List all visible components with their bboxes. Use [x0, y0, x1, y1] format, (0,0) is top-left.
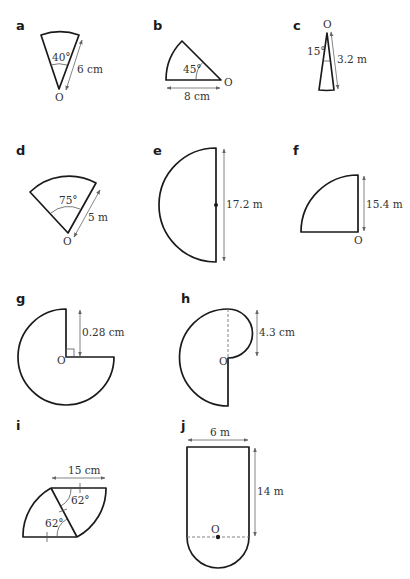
angle-text-c: 15° — [307, 45, 326, 57]
angle-arc-a — [51, 64, 67, 65]
figure-g: g 0.28 cm O — [16, 291, 125, 405]
centre-label-b: O — [224, 76, 233, 88]
figure-a: a 40° 6 cm O — [16, 18, 103, 103]
centre-label-j: O — [211, 523, 220, 535]
figure-b: b 45° 8 cm O — [153, 18, 233, 102]
centre-label-h: O — [219, 355, 228, 367]
figure-c: c 15° 3.2 m O — [293, 18, 367, 90]
width-text-j: 6 m — [210, 426, 230, 438]
length-text-c: 3.2 m — [337, 53, 367, 65]
figure-label-e: e — [153, 143, 162, 158]
angle-text-a: 40° — [52, 51, 71, 63]
length-text-i: 15 cm — [68, 464, 101, 476]
figure-label-f: f — [293, 143, 299, 158]
figure-label-h: h — [181, 291, 190, 306]
angle-arc-d — [51, 206, 80, 213]
figure-label-b: b — [153, 18, 162, 33]
centre-label-f: O — [354, 234, 363, 246]
semicircle-e — [159, 148, 216, 262]
centre-dot-j — [216, 535, 220, 539]
figure-label-j: j — [180, 418, 185, 433]
length-text-g: 0.28 cm — [82, 326, 125, 338]
angle-text-i-bottom: 62° — [45, 517, 64, 529]
length-text-h: 4.3 cm — [259, 326, 295, 338]
angle-text-b: 45° — [183, 63, 202, 75]
rectangle-semicircle-j — [187, 447, 249, 568]
height-text-j: 14 m — [257, 485, 284, 497]
compound-semicircle-h — [179, 309, 252, 406]
length-text-e: 17.2 m — [226, 198, 263, 210]
centre-label-g: O — [57, 354, 66, 366]
centre-dot-e — [214, 203, 218, 207]
figure-h: h 4.3 cm O — [179, 291, 294, 406]
diagram-canvas: a 40° 6 cm O b 45° 8 cm O c 15° 3.2 m O … — [0, 0, 410, 579]
figure-e: e 17.2 m — [153, 143, 263, 262]
angle-text-d: 75° — [59, 194, 78, 206]
figure-d: d 75° 5 m O — [16, 143, 108, 247]
centre-label-a: O — [55, 91, 64, 103]
length-text-f: 15.4 m — [366, 198, 403, 210]
figure-f: f 15.4 m O — [293, 143, 403, 246]
angle-arc-i-top — [61, 488, 71, 506]
centre-label-c: O — [323, 18, 332, 30]
figure-j: j O 6 m 14 m — [180, 418, 284, 568]
figure-label-d: d — [16, 143, 25, 158]
angle-text-i-top: 62° — [71, 494, 90, 506]
centre-label-d: O — [63, 235, 72, 247]
quarter-circle-f — [301, 175, 358, 232]
figure-label-i: i — [16, 418, 20, 433]
sector-i-bottom — [23, 488, 77, 537]
figure-label-a: a — [16, 18, 25, 33]
length-text-a: 6 cm — [77, 63, 103, 75]
length-text-d: 5 m — [88, 211, 108, 223]
length-text-b: 8 cm — [184, 90, 210, 102]
right-angle-mark-g — [66, 349, 74, 357]
figure-i: i 62° 62° 15 cm — [16, 418, 106, 542]
figure-label-c: c — [293, 18, 301, 33]
sector-c — [319, 33, 334, 90]
figure-label-g: g — [16, 291, 25, 306]
